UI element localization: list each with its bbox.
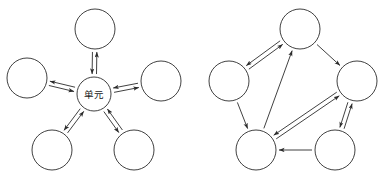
- node-circle: [315, 130, 355, 170]
- node-star-topology-top[interactable]: [75, 9, 115, 49]
- node-circle: [32, 130, 72, 170]
- edge-arrow-top-to-right: [317, 45, 340, 66]
- edge-arrow-right-to-bottom-right: [340, 102, 348, 127]
- node-circle: [7, 58, 47, 98]
- node-mesh-topology-upper-left[interactable]: [209, 61, 249, 101]
- edge-arrow-bottom-right-to-right: [344, 104, 352, 129]
- node-mesh-topology-bottom-left[interactable]: [236, 130, 276, 170]
- edge-arrow-right-to-center: [113, 83, 138, 88]
- node-mesh-topology-top[interactable]: [280, 9, 320, 49]
- node-mesh-topology-right[interactable]: [337, 61, 377, 101]
- node-star-topology-right[interactable]: [141, 61, 181, 101]
- node-circle: [114, 130, 154, 170]
- node-star-topology-bottom-right[interactable]: [114, 130, 154, 170]
- node-star-topology-center[interactable]: 单元: [77, 77, 111, 111]
- edge-arrow-upper-left-to-top: [249, 44, 283, 69]
- edge-arrow-bottom-left-to-top: [264, 51, 292, 129]
- edge-arrow-upper-left-to-bottom-left: [237, 102, 247, 128]
- node-circle: [141, 61, 181, 101]
- node-circle: [236, 130, 276, 170]
- node-label: 单元: [84, 89, 104, 100]
- node-mesh-topology-bottom-right[interactable]: [315, 130, 355, 170]
- edge-arrow-center-to-right: [114, 88, 139, 93]
- node-circle: [75, 9, 115, 49]
- node-star-topology-bottom-left[interactable]: [32, 130, 72, 170]
- node-circle: [337, 61, 377, 101]
- node-circle: [280, 9, 320, 49]
- edge-arrow-right-to-bottom-left: [274, 92, 337, 135]
- figure-root: 单元: [0, 0, 389, 181]
- node-circle: [209, 61, 249, 101]
- topology-diagrams-canvas: 单元: [0, 0, 389, 181]
- edge-arrow-top-to-upper-left: [246, 41, 280, 66]
- nodes-layer: 单元: [7, 9, 377, 170]
- node-star-topology-left[interactable]: [7, 58, 47, 98]
